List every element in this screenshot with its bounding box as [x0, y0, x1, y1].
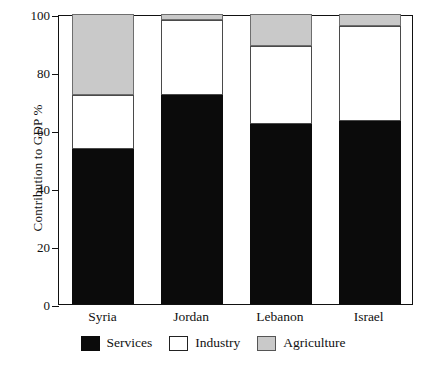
segment-syria-agriculture — [72, 14, 134, 95]
bar-lebanon — [250, 14, 312, 304]
y-tick-label: 60 — [37, 124, 50, 140]
x-label-israel: Israel — [354, 309, 384, 325]
industry-swatch — [169, 336, 188, 351]
segment-syria-services — [72, 149, 134, 304]
segment-jordan-services — [161, 95, 223, 304]
bar-jordan — [161, 14, 223, 304]
agriculture-swatch — [257, 336, 276, 351]
y-tick-mark — [52, 190, 59, 191]
y-tick-mark — [52, 306, 59, 307]
chart-legend: ServicesIndustryAgriculture — [0, 335, 426, 351]
segment-jordan-agriculture — [161, 14, 223, 20]
y-tick-label: 40 — [37, 182, 50, 198]
segment-israel-agriculture — [339, 14, 401, 26]
y-tick-label: 80 — [37, 66, 50, 82]
y-tick-mark — [52, 132, 59, 133]
y-tick-label: 0 — [44, 298, 51, 314]
y-tick-mark — [52, 16, 59, 17]
legend-label: Agriculture — [283, 335, 345, 351]
legend-item-industry[interactable]: Industry — [169, 335, 240, 351]
bar-syria — [72, 14, 134, 304]
legend-item-agriculture[interactable]: Agriculture — [257, 335, 345, 351]
y-tick-mark — [52, 74, 59, 75]
y-tick-mark — [52, 248, 59, 249]
y-tick-label: 100 — [31, 8, 51, 24]
chart-figure: Contribution to GDP % 020406080100 Syria… — [0, 0, 426, 369]
segment-lebanon-services — [250, 124, 312, 304]
y-tick-label: 20 — [37, 240, 50, 256]
segment-syria-industry — [72, 95, 134, 149]
x-label-jordan: Jordan — [173, 309, 209, 325]
legend-label: Industry — [195, 335, 240, 351]
x-label-lebanon: Lebanon — [256, 309, 303, 325]
bar-israel — [339, 14, 401, 304]
segment-israel-industry — [339, 26, 401, 122]
services-swatch — [81, 336, 100, 351]
segment-israel-services — [339, 121, 401, 304]
segment-lebanon-industry — [250, 46, 312, 124]
legend-label: Services — [107, 335, 153, 351]
segment-lebanon-agriculture — [250, 14, 312, 46]
x-label-syria: Syria — [88, 309, 117, 325]
segment-jordan-industry — [161, 20, 223, 95]
legend-item-services[interactable]: Services — [81, 335, 153, 351]
plot-area: 020406080100 — [58, 15, 413, 305]
